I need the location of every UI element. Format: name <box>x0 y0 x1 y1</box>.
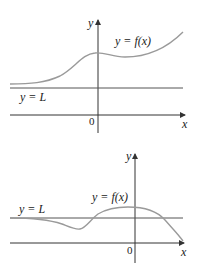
y-axis-label: y <box>125 149 132 163</box>
function-curve <box>10 32 183 84</box>
origin-label: 0 <box>127 244 133 256</box>
y-axis-label: y <box>87 16 94 30</box>
x-axis-label: x <box>181 117 188 131</box>
origin-label: 0 <box>89 115 95 127</box>
curve-label: y = f(x) <box>114 34 151 48</box>
curve-label: y = f(x) <box>91 190 128 204</box>
asymptote-label: y = L <box>19 90 46 104</box>
diagram-canvas: y x 0 y = f(x) y = L y x 0 y = f(x) y = … <box>0 0 205 275</box>
asymptote-label: y = L <box>18 202 45 216</box>
top-graph: y x 0 y = f(x) y = L <box>10 16 188 133</box>
bottom-graph: y x 0 y = f(x) y = L <box>10 149 187 263</box>
x-axis-label: x <box>180 245 187 259</box>
